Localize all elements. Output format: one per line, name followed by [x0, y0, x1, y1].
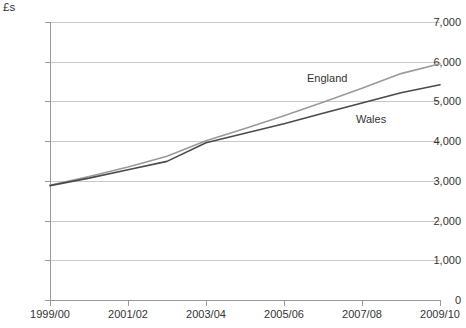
x-tick-label: 2003/04	[171, 308, 241, 320]
y-tick-label: 6,000	[417, 57, 461, 68]
gridline	[50, 62, 440, 63]
y-tick-mark	[45, 62, 50, 63]
x-tick-mark	[128, 301, 129, 306]
gridline	[50, 260, 440, 261]
gridline	[50, 101, 440, 102]
y-tick-label: 7,000	[417, 17, 461, 28]
y-axis-line	[50, 22, 51, 301]
x-tick-label: 2005/06	[249, 308, 319, 320]
x-tick-label: 2009/10	[405, 308, 466, 320]
x-tick-label: 1999/00	[15, 308, 85, 320]
y-tick-label: 1,000	[417, 255, 461, 266]
y-tick-mark	[45, 221, 50, 222]
y-tick-label: 4,000	[417, 136, 461, 147]
series-label-england: England	[307, 72, 347, 84]
y-tick-label: 5,000	[417, 96, 461, 107]
y-tick-label: 2,000	[417, 216, 461, 227]
y-tick-label: 0	[417, 295, 461, 306]
x-tick-mark	[284, 301, 285, 306]
x-tick-mark	[206, 301, 207, 306]
gridline	[50, 22, 440, 23]
series-label-wales: Wales	[356, 113, 386, 125]
y-tick-mark	[45, 141, 50, 142]
gridline	[50, 141, 440, 142]
y-tick-mark	[45, 101, 50, 102]
gridline	[50, 221, 440, 222]
x-tick-label: 2001/02	[93, 308, 163, 320]
x-axis-line	[50, 300, 441, 301]
x-tick-label: 2007/08	[327, 308, 397, 320]
y-tick-mark	[45, 22, 50, 23]
x-tick-mark	[440, 301, 441, 306]
y-tick-mark	[45, 181, 50, 182]
y-tick-label: 3,000	[417, 176, 461, 187]
x-tick-mark	[50, 301, 51, 306]
gridline	[50, 181, 440, 182]
y-axis-unit-label: £s	[3, 1, 15, 13]
x-tick-mark	[362, 301, 363, 306]
plot-area	[50, 22, 440, 300]
y-tick-mark	[45, 260, 50, 261]
